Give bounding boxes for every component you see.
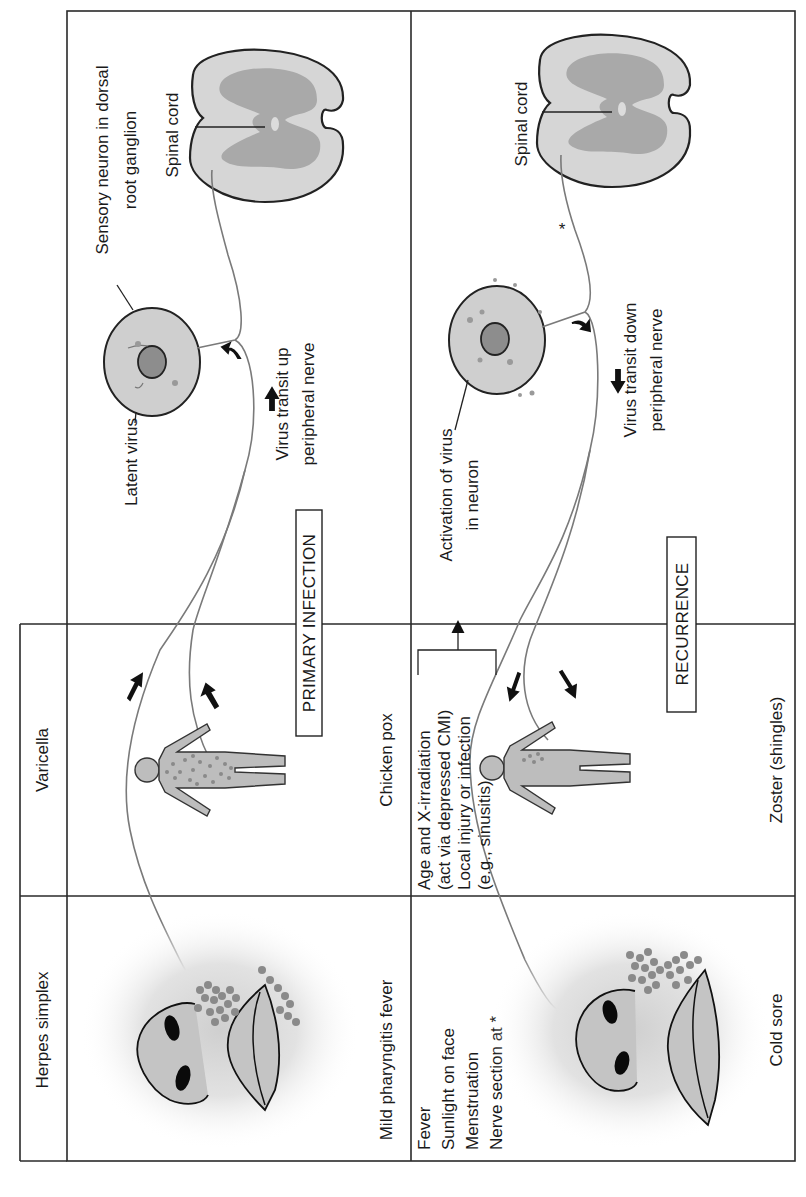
body-figure-zoster: [480, 722, 630, 814]
primary-infection-badge: PRIMARY INFECTION: [296, 510, 322, 736]
face-mild-pharyngitis: [80, 910, 360, 1150]
arrow-down-1-icon: [508, 673, 520, 700]
varicella-triggers: Age and X-irradiation (act via depressed…: [415, 710, 494, 890]
varicella-trigger-2: (act via depressed CMI): [435, 710, 454, 890]
label-latent-virus: Latent virus: [122, 418, 141, 506]
row-header-varicella: Varicella: [33, 727, 52, 791]
nerve-recurrence-down: [470, 312, 598, 1010]
varicella-trigger-3: Local injury or infection: [455, 716, 474, 890]
label-cold-sore: Cold sore: [767, 994, 786, 1067]
label-mild-pharyngitis: Mild pharyngitis fever: [377, 979, 396, 1140]
svg-text:RECURRENCE: RECURRENCE: [673, 563, 692, 686]
arrow-down-2-icon: [560, 671, 576, 697]
herpes-trigger-2: Sunlight on face: [439, 1028, 458, 1150]
row-header-herpes: Herpes simplex: [33, 971, 52, 1089]
label-spinal-cord-primary: Spinal cord: [163, 92, 182, 177]
trigger-bracket: [418, 650, 496, 675]
label-activation: Activation of virus: [437, 428, 456, 561]
dorsal-root-ganglion-primary: [104, 308, 200, 416]
svg-text:PRIMARY INFECTION: PRIMARY INFECTION: [300, 534, 319, 712]
label-spinal-cord-recurrence: Spinal cord: [512, 81, 531, 166]
nerve-section-marker: *: [559, 220, 566, 239]
herpes-trigger-3: Menstruation: [463, 1052, 482, 1150]
label-zoster: Zoster (shingles): [767, 697, 786, 824]
leader-sensory-neuron: [117, 285, 133, 310]
label-activation-line2: in neuron: [463, 460, 482, 531]
body-figure-chicken-pox: [135, 724, 285, 816]
varicella-trigger-4: (e.g., sinusitis): [475, 780, 494, 890]
arrow-curved-up-icon: [222, 343, 240, 358]
label-chicken-pox: Chicken pox: [377, 713, 396, 807]
label-transit-down-line2: peripheral nerve: [647, 309, 666, 432]
varicella-trigger-1: Age and X-irradiation: [415, 730, 434, 890]
arrow-curved-down-icon: [572, 321, 590, 331]
leader-activation: [455, 380, 468, 430]
spinal-cord-recurrence: [537, 35, 690, 187]
label-sensory-neuron: Sensory neuron in dorsal: [93, 65, 112, 254]
face-cold-sore: [490, 910, 770, 1150]
nerve-primary-varicella-branch: [189, 470, 245, 760]
label-transit-up-line2: peripheral nerve: [299, 343, 318, 466]
recurrence-badge: RECURRENCE: [667, 537, 696, 712]
spinal-cord-primary: [190, 50, 343, 202]
label-sensory-neuron-line2: root ganglion: [121, 111, 140, 209]
herpesvirus-latency-diagram: Varicella Herpes simplex Spinal cord Sen…: [0, 0, 806, 1197]
herpes-trigger-1: Fever: [415, 1106, 434, 1150]
arrow-diag-1-icon: [128, 674, 142, 700]
arrow-diag-2-icon: [202, 684, 218, 708]
dorsal-root-ganglion-recurrence: [449, 278, 545, 397]
label-transit-up: Virus transit up: [273, 347, 292, 460]
label-transit-down: Virus transit down: [621, 303, 640, 438]
